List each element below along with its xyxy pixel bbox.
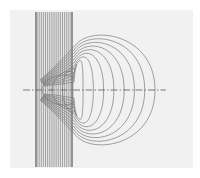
field-lines-diagram bbox=[0, 0, 200, 178]
panel-background bbox=[10, 10, 193, 168]
